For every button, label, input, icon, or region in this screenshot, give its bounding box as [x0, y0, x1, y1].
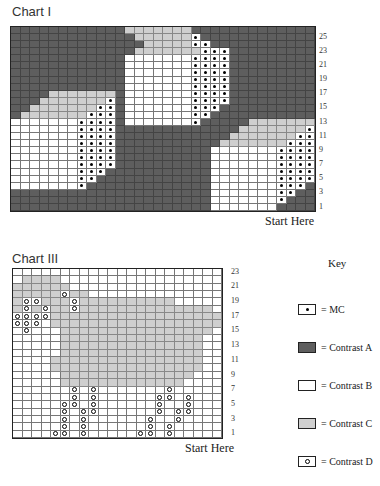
mc-stitch-cell: [211, 91, 221, 98]
contrast-b-cell: [165, 409, 175, 416]
contrast-b-cell: [154, 84, 164, 91]
contrast-c-cell: [23, 284, 33, 291]
contrast-c-cell: [127, 350, 137, 357]
contrast-b-cell: [154, 105, 164, 112]
contrast-b-cell: [249, 161, 259, 168]
mc-stitch-cell: [220, 69, 230, 76]
contrast-a-cell: [249, 62, 259, 69]
mc-stitch-cell: [87, 161, 97, 168]
contrast-c-cell: [154, 34, 164, 41]
contrast-b-cell: [51, 372, 61, 379]
contrast-c-cell: [173, 27, 183, 34]
contrast-a-cell: [144, 154, 154, 161]
contrast-c-cell: [154, 27, 164, 34]
contrast-c-cell: [61, 335, 71, 342]
contrast-b-cell: [258, 176, 268, 183]
contrast-a-cell: [49, 69, 59, 76]
contrast-c-cell: [80, 364, 90, 371]
contrast-c-cell: [146, 379, 156, 386]
contrast-b-cell: [213, 372, 223, 379]
contrast-b-cell: [40, 140, 50, 147]
mc-stitch-cell: [97, 133, 107, 140]
mc-stitch-cell: [277, 161, 287, 168]
contrast-b-cell: [118, 284, 128, 291]
contrast-a-cell: [78, 27, 88, 34]
contrast-c-cell: [49, 91, 59, 98]
contrast-b-cell: [137, 291, 147, 298]
contrast-a-cell: [211, 41, 221, 48]
contrast-a-cell: [125, 140, 135, 147]
contrast-c-cell: [78, 105, 88, 112]
contrast-c-cell: [194, 335, 204, 342]
contrast-a-cell: [87, 190, 97, 197]
contrast-c-cell: [80, 313, 90, 320]
contrast-a-cell: [287, 55, 297, 62]
contrast-a-cell: [11, 69, 21, 76]
contrast-c-cell: [70, 335, 80, 342]
contrast-c-cell: [118, 328, 128, 335]
contrast-a-cell: [49, 48, 59, 55]
key-item-contrast-a: = Contrast A: [298, 340, 372, 354]
contrast-c-cell: [68, 98, 78, 105]
contrast-d-cell: [175, 416, 185, 423]
mc-stitch-cell: [211, 77, 221, 84]
contrast-c-cell: [99, 350, 109, 357]
mc-stitch-cell: [87, 147, 97, 154]
contrast-b-cell: [173, 84, 183, 91]
row-number: 13: [231, 341, 239, 349]
contrast-c-cell: [118, 298, 128, 305]
contrast-b-cell: [32, 350, 42, 357]
contrast-c-cell: [156, 342, 166, 349]
contrast-c-cell: [89, 342, 99, 349]
contrast-c-cell: [118, 357, 128, 364]
contrast-a-cell: [268, 69, 278, 76]
contrast-a-cell: [87, 197, 97, 204]
contrast-c-cell: [182, 41, 192, 48]
mc-stitch-cell: [106, 105, 116, 112]
contrast-b-cell: [127, 423, 137, 430]
contrast-a-cell: [116, 34, 126, 41]
contrast-b-cell: [213, 335, 223, 342]
contrast-b-cell: [213, 401, 223, 408]
contrast-b-cell: [258, 161, 268, 168]
contrast-c-cell: [108, 379, 118, 386]
contrast-b-cell: [175, 387, 185, 394]
contrast-a-cell: [239, 34, 249, 41]
contrast-c-cell: [146, 357, 156, 364]
contrast-c-cell: [137, 313, 147, 320]
contrast-c-cell: [175, 342, 185, 349]
contrast-a-cell: [296, 41, 306, 48]
contrast-c-cell: [220, 140, 230, 147]
contrast-b-cell: [268, 147, 278, 154]
contrast-a-cell: [116, 48, 126, 55]
contrast-c-cell: [23, 291, 33, 298]
contrast-a-cell: [116, 91, 126, 98]
contrast-a-cell: [239, 84, 249, 91]
contrast-a-cell: [11, 197, 21, 204]
contrast-b-cell: [154, 77, 164, 84]
contrast-c-cell: [13, 284, 23, 291]
contrast-d-cell: [146, 423, 156, 430]
contrast-c-cell: [146, 320, 156, 327]
contrast-a-cell: [287, 41, 297, 48]
contrast-a-cell: [249, 27, 259, 34]
mc-stitch-cell: [201, 112, 211, 119]
contrast-b-cell: [213, 276, 223, 283]
contrast-a-cell: [268, 112, 278, 119]
contrast-a-cell: [116, 84, 126, 91]
contrast-a-cell: [49, 27, 59, 34]
contrast-a-cell: [87, 62, 97, 69]
contrast-b-cell: [194, 298, 204, 305]
contrast-d-cell: [165, 431, 175, 438]
mc-stitch-cell: [287, 176, 297, 183]
contrast-b-cell: [42, 394, 52, 401]
contrast-a-cell: [211, 140, 221, 147]
contrast-c-cell: [118, 364, 128, 371]
row-number: 17: [231, 312, 239, 320]
contrast-a-cell: [135, 169, 145, 176]
contrast-b-cell: [203, 269, 213, 276]
contrast-b-cell: [268, 176, 278, 183]
contrast-b-cell: [127, 387, 137, 394]
contrast-c-cell: [127, 372, 137, 379]
contrast-b-cell: [49, 154, 59, 161]
